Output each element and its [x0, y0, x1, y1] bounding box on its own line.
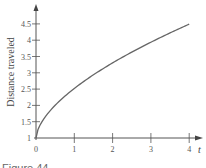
x-tick-label: 1 [72, 145, 76, 154]
chart: 11.522.533.544.5 01234 Distance traveled… [0, 0, 206, 168]
x-axis-arrow-icon [195, 136, 203, 141]
x-tick-label: 3 [149, 145, 153, 154]
y-tick-label: 2.5 [21, 85, 31, 94]
y-tick-label: 1 [27, 134, 31, 143]
x-tick-label: 4 [187, 145, 191, 154]
y-tick-label: 3 [27, 69, 31, 78]
y-tick-label: 3.5 [21, 53, 31, 62]
y-axis-arrow-icon [34, 4, 39, 11]
y-ticks: 11.522.533.544.5 [21, 20, 40, 143]
x-ticks: 01234 [34, 133, 191, 154]
figure-caption: Figure 44 [2, 162, 48, 168]
y-tick-label: 4.5 [21, 20, 31, 29]
y-tick-label: 2 [27, 101, 31, 110]
x-tick-label: 2 [111, 145, 115, 154]
y-axis-title: Distance traveled [5, 37, 16, 107]
y-tick-label: 4 [27, 36, 31, 45]
distance-curve [36, 24, 189, 138]
x-tick-label: 0 [34, 145, 38, 154]
y-tick-label: 1.5 [21, 118, 31, 127]
x-axis-title: t [198, 144, 201, 155]
